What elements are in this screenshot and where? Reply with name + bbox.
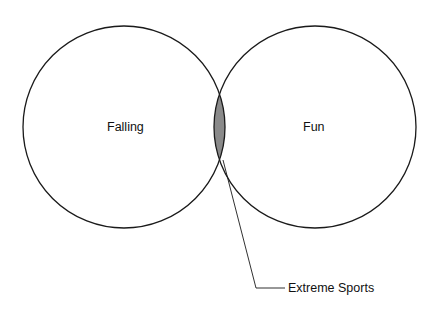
label-falling: Falling bbox=[107, 120, 144, 134]
leader-line bbox=[223, 160, 285, 288]
venn-diagram: Falling Fun Extreme Sports bbox=[0, 0, 438, 311]
label-fun: Fun bbox=[303, 120, 325, 134]
label-extreme-sports: Extreme Sports bbox=[288, 281, 374, 295]
